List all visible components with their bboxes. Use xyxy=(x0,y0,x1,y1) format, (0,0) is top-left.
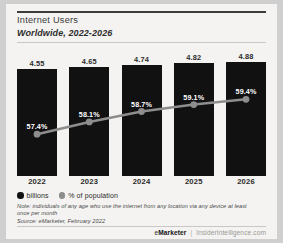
percent-value-label: 59.1% xyxy=(174,93,214,102)
chart-notes: Note: individuals of any age who use the… xyxy=(17,203,260,226)
legend-label-billions: billions xyxy=(27,192,49,199)
page-title: Internet Users xyxy=(17,15,78,25)
note-text: Note: individuals of any age who use the… xyxy=(17,203,260,217)
header-divider xyxy=(17,42,266,43)
x-axis-tick-2026: 2026 xyxy=(226,177,266,186)
percent-data-point-2022 xyxy=(34,131,41,138)
top-rule xyxy=(17,11,266,13)
chart-plot-area: 4.5557.4%4.6558.1%4.7458.7%4.8259.1%4.88… xyxy=(17,54,266,176)
x-axis: 20222023202420252026 xyxy=(17,177,266,189)
footer-divider xyxy=(17,226,266,227)
legend-marker-billions-icon xyxy=(17,192,24,199)
percent-value-label: 57.4% xyxy=(17,122,57,131)
chart-legend: billions % of population xyxy=(17,192,118,199)
x-axis-tick-2022: 2022 xyxy=(17,177,57,186)
page-subtitle: Worldwide, 2022-2026 xyxy=(17,28,112,38)
percent-data-point-2024 xyxy=(138,108,145,115)
x-axis-tick-2024: 2024 xyxy=(122,177,162,186)
brand-name: Marketer xyxy=(158,229,186,236)
percent-data-point-2023 xyxy=(86,119,93,126)
brand-emarketer: eMarketer xyxy=(155,229,187,236)
footer-website: InsiderIntelligence.com xyxy=(196,229,266,236)
legend-marker-percent-icon xyxy=(59,192,66,199)
footer-separator: | xyxy=(191,229,193,236)
percent-data-point-2025 xyxy=(190,101,197,108)
x-axis-tick-2025: 2025 xyxy=(174,177,214,186)
legend-item-billions: billions xyxy=(17,192,49,199)
percent-line-series xyxy=(17,54,266,176)
chart-card: Internet Users Worldwide, 2022-2026 4.55… xyxy=(6,4,277,239)
legend-item-percent-of-population: % of population xyxy=(59,192,118,199)
legend-label-percent-of-population: % of population xyxy=(68,192,118,199)
percent-data-point-2026 xyxy=(243,96,250,103)
source-text: Source: eMarketer, February 2022 xyxy=(17,218,260,225)
percent-value-label: 59.4% xyxy=(226,87,266,96)
footer: eMarketer | InsiderIntelligence.com xyxy=(155,229,266,236)
percent-value-label: 58.7% xyxy=(122,100,162,109)
percent-value-label: 58.1% xyxy=(69,110,109,119)
x-axis-tick-2023: 2023 xyxy=(69,177,109,186)
